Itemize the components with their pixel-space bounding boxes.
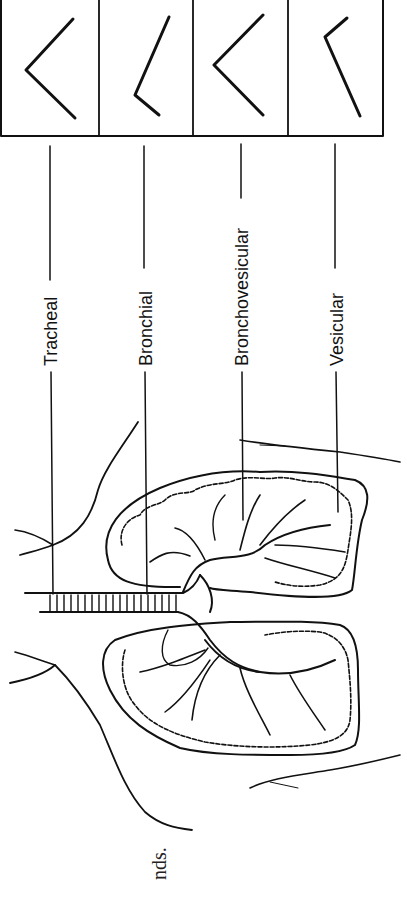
vesicular-waveform-icon	[325, 18, 360, 116]
label-bronchovesicular: Bronchovesicular	[232, 228, 252, 366]
labels: Tracheal Bronchial Bronchovesicular Vesi…	[41, 228, 347, 366]
lung-left-icon	[103, 622, 359, 755]
leader-lines	[50, 144, 338, 594]
bronchial-waveform-icon	[135, 17, 169, 115]
label-bronchial: Bronchial	[136, 291, 156, 366]
caption-fragment: nds.	[148, 847, 170, 880]
label-vesicular: Vesicular	[327, 293, 347, 366]
breath-sounds-diagram: Tracheal Bronchial Bronchovesicular Vesi…	[0, 0, 407, 906]
bronchovesicular-waveform-icon	[214, 15, 263, 115]
waveform-panel	[1, 0, 383, 136]
waveform-panel-border	[1, 0, 383, 136]
tracheal-waveform-icon	[26, 19, 75, 118]
label-tracheal: Tracheal	[41, 297, 61, 366]
